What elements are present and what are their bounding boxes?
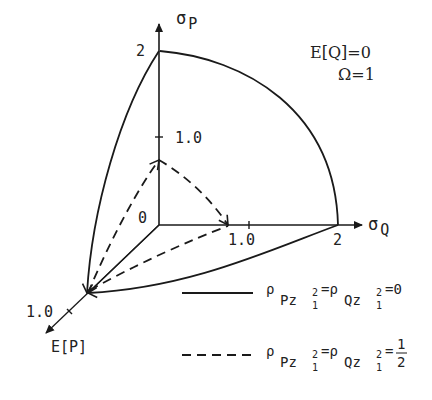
sigma-q-tick-2-label: 2 (333, 231, 342, 249)
svg-text:2: 2 (312, 349, 318, 360)
e-p-tick-1-label: 1.0 (26, 303, 53, 321)
svg-text:ρ: ρ (266, 281, 274, 297)
dashed-arc-p-q (159, 160, 228, 225)
legend-item-solid: ρ Pz 2 1 =ρ Qz 2 1 =0 (182, 281, 402, 311)
svg-text:1: 1 (397, 336, 405, 352)
svg-text:2: 2 (376, 287, 382, 298)
sigma-p-tick-1-label: 1.0 (175, 129, 202, 147)
svg-text:Qz: Qz (344, 354, 361, 370)
sigma-p-tick-2-label: 2 (136, 42, 145, 60)
sigma-p-axis: σP 2 1.0 (136, 8, 202, 225)
sigma-q-label: σQ (368, 214, 389, 239)
legend-item-dashed: ρ Pz 2 1 =ρ Qz 2 1 = 1 2 (182, 336, 407, 373)
svg-text:=: = (385, 343, 393, 359)
efficient-frontier-3d-diagram: σP 2 1.0 σQ 1.0 2 1.0 E[P] 0 E[Q]=0 (0, 0, 432, 400)
svg-text:Qz: Qz (344, 292, 361, 308)
parameters: E[Q]=0 Ω=1 (310, 43, 375, 84)
solid-radial-line (88, 225, 159, 293)
svg-text:=0: =0 (385, 281, 402, 297)
sigma-q-axis: σQ 1.0 2 (159, 214, 389, 249)
svg-text:2: 2 (397, 354, 405, 370)
solid-arc-p-ep (87, 51, 159, 293)
svg-text:=ρ: =ρ (321, 281, 338, 297)
legend: ρ Pz 2 1 =ρ Qz 2 1 =0 ρ Pz 2 1 =ρ Qz 2 1… (182, 281, 407, 373)
param-e-q: E[Q]=0 (310, 43, 371, 62)
svg-text:1: 1 (376, 300, 382, 311)
svg-text:=ρ: =ρ (321, 343, 338, 359)
svg-text:Pz: Pz (280, 354, 297, 370)
svg-text:2: 2 (312, 287, 318, 298)
solid-surface-rho-0 (87, 51, 338, 293)
svg-text:1: 1 (312, 300, 318, 311)
svg-text:1: 1 (376, 362, 382, 373)
solid-arc-q-ep (88, 225, 338, 293)
sigma-p-label: σP (176, 8, 197, 33)
origin-label: 0 (138, 209, 147, 227)
sigma-q-tick-1-label: 1.0 (228, 231, 255, 249)
svg-text:2: 2 (376, 349, 382, 360)
svg-text:ρ: ρ (266, 343, 274, 359)
e-p-label: E[P] (51, 338, 87, 356)
svg-text:1: 1 (312, 362, 318, 373)
dashed-line-ep-q (90, 226, 228, 290)
param-omega: Ω=1 (338, 65, 375, 84)
svg-text:Pz: Pz (280, 292, 297, 308)
